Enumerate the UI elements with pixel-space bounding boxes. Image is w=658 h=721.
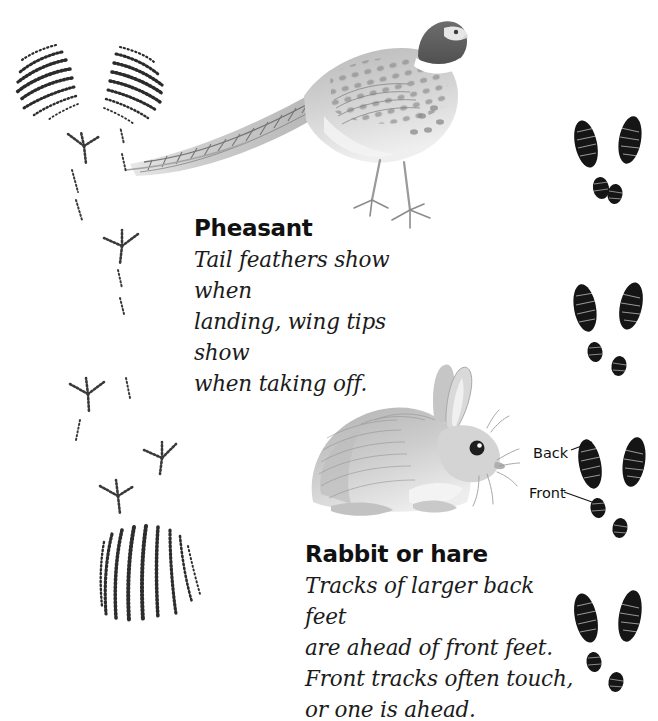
rabbit-track-set — [568, 586, 654, 696]
rabbit-entry: Rabbit or hare Tracks of larger back fee… — [305, 542, 575, 721]
front-prints — [585, 651, 625, 693]
wing-tip-right — [104, 47, 163, 124]
back-track-label: Back — [533, 445, 568, 461]
back-prints — [570, 114, 645, 169]
rabbit-heading: Rabbit or hare — [305, 542, 575, 566]
pheasant-body-text: Tail feathers show when landing, wing ti… — [194, 244, 444, 399]
pheasant-heading: Pheasant — [194, 216, 444, 240]
wing-tip-left — [17, 45, 78, 120]
bird-track — [68, 128, 176, 514]
front-prints — [586, 341, 628, 377]
rabbit-body-text: Tracks of larger back feet are ahead of … — [305, 570, 575, 721]
rabbit-track-set — [568, 112, 654, 212]
tail-drag-strokes — [101, 526, 200, 620]
pheasant-entry: Pheasant Tail feathers show when landing… — [194, 216, 444, 399]
pheasant-eye — [454, 30, 458, 34]
back-prints — [570, 280, 647, 333]
rabbit-track-set — [568, 278, 654, 382]
front-track-label: Front — [529, 485, 566, 501]
back-leader-line — [571, 442, 592, 450]
callout-leader-lines — [570, 440, 600, 510]
bird-footprints — [62, 128, 182, 548]
front-prints — [591, 176, 624, 205]
back-prints — [570, 588, 645, 644]
rabbit-eye — [470, 441, 485, 456]
tail-feather-drag — [96, 524, 206, 628]
